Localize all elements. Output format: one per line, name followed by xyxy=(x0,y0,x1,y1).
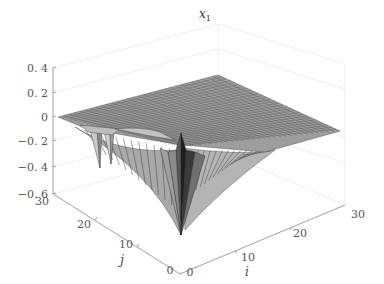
i-axis-label: i xyxy=(245,265,249,279)
i-tick-label: 30 xyxy=(351,208,365,221)
i-axis xyxy=(180,205,345,274)
i-tick-label: 20 xyxy=(293,227,307,240)
z-axis xyxy=(53,67,56,194)
z-tick-label: 0. 2 xyxy=(27,87,48,100)
z-tick-label: −0. 2 xyxy=(18,135,48,148)
j-tick-label: 10 xyxy=(119,238,133,251)
j-axis xyxy=(53,194,180,274)
z-tick-label: −0. 4 xyxy=(18,161,48,174)
i-tick-label: 0 xyxy=(187,266,194,279)
i-tick-label: 10 xyxy=(241,251,255,264)
j-tick-label: 20 xyxy=(77,218,91,231)
z-tick-label: 0 xyxy=(41,111,48,124)
chart-title: x1 xyxy=(199,7,211,23)
surface-plot: 0. 4 0. 2 0 −0. 2 −0. 4 −0. 6 30 20 10 0… xyxy=(0,0,384,284)
j-axis-label: j xyxy=(117,253,124,267)
j-tick-label: 30 xyxy=(35,195,49,208)
z-tick-labels: 0. 4 0. 2 0 −0. 2 −0. 4 −0. 6 xyxy=(18,62,48,201)
i-tick-labels: 0 10 20 30 xyxy=(187,208,366,279)
j-tick-labels: 30 20 10 0 xyxy=(35,195,174,277)
j-tick-label: 0 xyxy=(167,264,174,277)
z-tick-label: 0. 4 xyxy=(27,62,48,75)
